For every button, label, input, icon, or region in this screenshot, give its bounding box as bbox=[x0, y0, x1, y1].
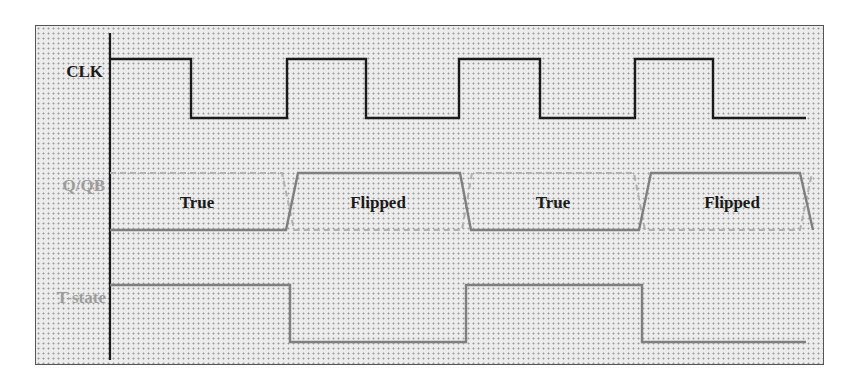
clk-waveform bbox=[110, 59, 806, 118]
q-segment-label: True bbox=[180, 193, 215, 212]
q-segment-label: Flipped bbox=[350, 193, 406, 212]
timing-diagram: CLK Q/QB T-state True Flipped True Flipp… bbox=[0, 0, 851, 385]
signal-label-t-state: T-state bbox=[57, 288, 107, 307]
q-segment-label: Flipped bbox=[704, 193, 760, 212]
signal-label-q-qb: Q/QB bbox=[62, 176, 105, 195]
t-state-waveform bbox=[110, 285, 806, 342]
q-segment-label: True bbox=[536, 193, 571, 212]
waveforms: CLK Q/QB T-state True Flipped True Flipp… bbox=[0, 0, 851, 385]
signal-label-clk: CLK bbox=[66, 62, 104, 81]
